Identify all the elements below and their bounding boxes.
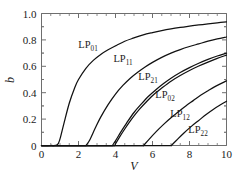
- curve-label-subscript: 21: [151, 77, 159, 85]
- curve-label-lp12: LP12: [170, 108, 190, 122]
- y-tick-label: 0.8: [23, 34, 37, 46]
- curve-label-lp21: LP21: [138, 71, 158, 85]
- y-tick-label: 0.2: [23, 113, 37, 125]
- y-tick-label: 0: [31, 140, 37, 152]
- x-tick-label: 2: [76, 148, 82, 160]
- y-tick-label: 0.4: [23, 87, 37, 99]
- curve-label-subscript: 01: [91, 45, 99, 53]
- curve-label-lp22: LP22: [188, 124, 208, 138]
- x-tick-label: 8: [187, 148, 193, 160]
- curve-label-subscript: 02: [168, 95, 176, 103]
- y-axis-tick-labels: 00.20.40.60.81.0: [23, 8, 37, 152]
- curve-label-subscript: 11: [126, 59, 133, 67]
- y-tick-label: 1.0: [23, 8, 37, 20]
- x-tick-label: 4: [113, 148, 119, 160]
- x-axis-tick-labels: 0246810: [39, 148, 233, 160]
- x-tick-label: 0: [39, 148, 45, 160]
- curve-label-lp01: LP01: [78, 39, 98, 53]
- x-tick-label: 6: [150, 148, 156, 160]
- x-tick-label: 10: [221, 148, 233, 160]
- curve-label-subscript: 12: [183, 114, 191, 122]
- chart-figure: 0246810 00.20.40.60.81.0 LP01LP11LP21LP0…: [0, 0, 242, 175]
- plot-area: 0246810 00.20.40.60.81.0 LP01LP11LP21LP0…: [0, 0, 242, 175]
- y-tick-label: 0.6: [23, 60, 37, 72]
- curve-label-lp11: LP11: [113, 53, 133, 67]
- y-axis-title: b: [3, 77, 17, 83]
- curve-label-subscript: 22: [201, 130, 209, 138]
- curve-label-lp02: LP02: [155, 89, 175, 103]
- x-axis-title: V: [130, 159, 139, 173]
